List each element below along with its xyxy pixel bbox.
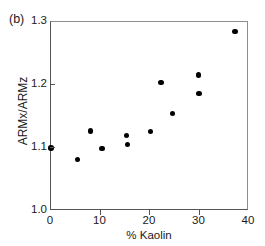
x-axis-tick-label: 30	[184, 214, 214, 226]
y-axis-tick-label: 1.3	[1, 15, 47, 27]
data-point	[196, 72, 201, 77]
scatter-plot-figure: (b) 1.01.11.21.3 ARMx/ARMz % Kaolin 0102…	[0, 0, 265, 246]
x-axis-tick-label: 0	[35, 214, 65, 226]
data-point	[88, 128, 93, 133]
x-axis-tick-label: 40	[233, 214, 263, 226]
y-axis-tick-mark	[50, 147, 55, 148]
x-axis-tick-label: 10	[85, 214, 115, 226]
x-axis-tick-label: 20	[134, 214, 164, 226]
x-axis-title: % Kaolin	[50, 229, 248, 241]
data-point	[170, 111, 175, 116]
data-point	[99, 146, 104, 151]
y-axis-tick-mark	[50, 84, 55, 85]
plot-area	[50, 21, 248, 210]
data-point	[232, 29, 237, 34]
data-point	[148, 129, 153, 134]
data-point	[124, 133, 129, 138]
data-point	[75, 157, 80, 162]
data-point	[125, 142, 130, 147]
data-point	[196, 91, 201, 96]
y-axis-title: ARMx/ARMz	[16, 41, 30, 181]
data-points-layer	[51, 22, 247, 209]
data-point	[158, 80, 163, 85]
